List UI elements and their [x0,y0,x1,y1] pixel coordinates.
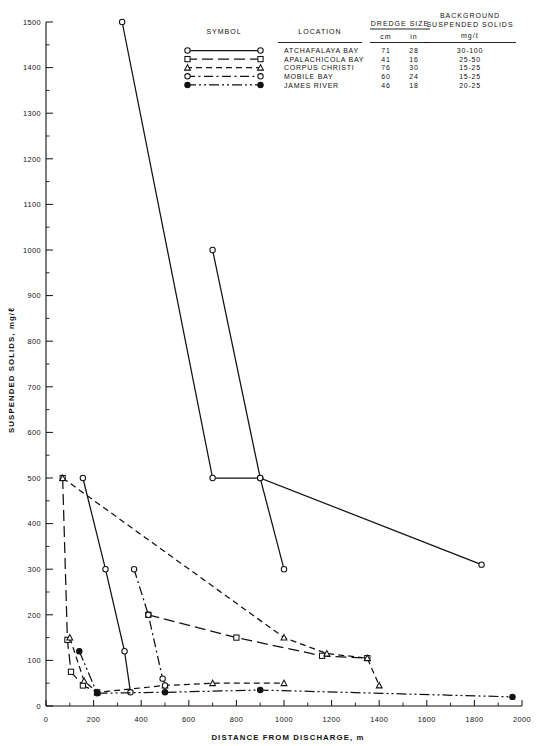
x-axis-tick-label: 400 [134,715,148,724]
legend-background-value: 15-25 [459,64,481,71]
x-axis-tick-label: 1600 [418,715,436,724]
legend-dredge-cm-value: 41 [381,56,390,63]
x-axis-tick-label: 600 [182,715,196,724]
suspended-solids-vs-distance-chart: 1500140013001200110010009008007006005004… [0,0,536,746]
legend-location-label: ATCHAFALAYA BAY [284,47,359,54]
legend-dredge-cm-value: 60 [381,73,390,80]
legend-header-symbol: SYMBOL [206,28,241,35]
legend-location-label: APALACHICOLA BAY [284,56,364,63]
y-axis-tick-label: 1200 [23,155,41,164]
data-point [258,475,263,480]
legend-header-background-1: BACKGROUND [440,12,500,19]
legend-symbol-marker-end [258,57,263,62]
data-point [160,676,165,681]
legend-symbol-marker-end [258,82,263,87]
legend-symbol-marker-end [258,48,263,53]
legend-background-value: 30-100 [457,47,483,54]
data-point [210,475,215,480]
data-point [162,683,167,688]
legend-header-dredge-size: DREDGE SIZE [371,20,429,27]
data-point [80,475,85,480]
data-point [94,691,99,696]
y-axis-tick-label: 200 [27,611,41,620]
data-point [103,567,108,572]
x-axis-tick-label: 1200 [323,715,341,724]
data-point [510,694,515,699]
legend-symbol-marker-start [185,48,190,53]
y-axis-tick-label: 900 [27,291,41,300]
legend-header-background-2: SUSPENDED SOLIDS [426,21,513,28]
legend-dredge-in-value: 18 [409,82,418,89]
y-axis-tick-label: 1400 [23,63,41,72]
legend-background-value: 25-50 [459,56,481,63]
x-axis-tick-label: 200 [87,715,101,724]
legend-header-in: in [410,33,417,40]
x-axis-tick-label: 1800 [465,715,483,724]
y-axis-tick-label: 100 [27,656,41,665]
data-point [146,612,151,617]
y-axis-tick-label: 700 [27,383,41,392]
data-point [234,635,239,640]
data-point [210,247,215,252]
x-axis-tick-label: 2000 [513,715,531,724]
chart-figure: 1500140013001200110010009008007006005004… [0,0,536,746]
chart-background [0,0,536,746]
data-point [68,669,73,674]
legend-location-label: MOBILE BAY [284,73,333,80]
legend-dredge-cm-value: 76 [381,64,390,71]
y-axis-tick-label: 600 [27,428,41,437]
data-point [131,567,136,572]
legend-symbol-marker-start [185,57,190,62]
x-axis-tick-label: 1000 [275,715,293,724]
legend-header-background-units: mg/ℓ [461,32,479,40]
x-axis-tick-label: 800 [230,715,244,724]
y-axis-title: SUSPENDED SOLIDS, mg/ℓ [7,307,16,433]
y-axis-tick-label: 1000 [23,246,41,255]
legend-dredge-in-value: 30 [409,64,418,71]
legend-dredge-in-value: 24 [409,73,418,80]
data-point [122,649,127,654]
legend-symbol-marker-start [185,82,190,87]
legend-symbol-marker-start [185,74,190,79]
legend-location-label: CORPUS CHRISTI [284,64,354,71]
legend-dredge-cm-value: 46 [381,82,390,89]
y-axis-tick-label: 1100 [24,200,42,209]
y-axis-tick-label: 300 [27,565,41,574]
data-point [119,19,124,24]
legend-background-value: 15-25 [459,73,481,80]
legend-dredge-in-value: 16 [409,56,418,63]
legend-dredge-in-value: 28 [409,47,418,54]
data-point [258,687,263,692]
data-point [281,567,286,572]
y-axis-tick-label: 0 [36,702,41,711]
y-axis-tick-label: 500 [27,474,41,483]
legend-header-location: LOCATION [298,28,341,35]
data-point [162,690,167,695]
legend-location-label: JAMES RIVER [284,82,339,89]
legend-background-value: 20-25 [459,82,481,89]
y-axis-tick-label: 1500 [23,18,41,27]
y-axis-tick-label: 400 [27,519,41,528]
data-point [479,562,484,567]
x-axis-title: DISTANCE FROM DISCHARGE, m [211,733,364,742]
x-axis-tick-label: 1400 [370,715,388,724]
legend-symbol-marker-end [258,74,263,79]
legend-dredge-cm-value: 71 [381,47,390,54]
data-point [77,649,82,654]
x-axis-tick-label: 0 [44,715,49,724]
y-axis-tick-label: 1300 [23,109,41,118]
legend-header-cm: cm [380,33,391,40]
y-axis-tick-label: 800 [27,337,41,346]
